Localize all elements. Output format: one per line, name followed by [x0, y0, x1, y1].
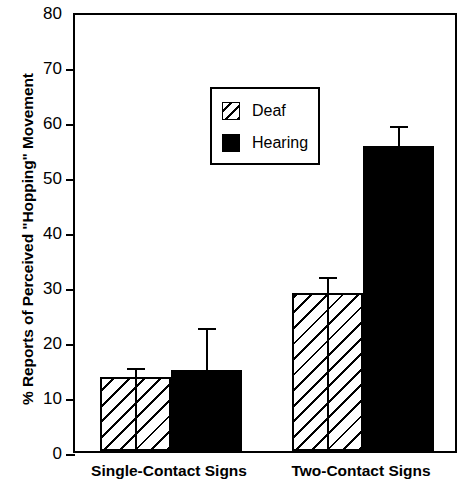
- y-tick-mark-50: [66, 179, 75, 181]
- y-tick-mark-10: [66, 399, 75, 401]
- legend-entry-deaf: Deaf: [222, 101, 286, 121]
- y-tick-label-0: 0: [32, 445, 62, 462]
- error-bar-stem: [206, 330, 208, 451]
- y-tick-label-20: 20: [32, 335, 62, 352]
- hatched-swatch-icon: [222, 102, 240, 120]
- solid-black-swatch-icon: [222, 134, 240, 152]
- error-bar-cap: [198, 328, 216, 330]
- y-tick-label-40: 40: [32, 225, 62, 242]
- y-tick-label-50: 50: [32, 170, 62, 187]
- x-axis-label-2: Two-Contact Signs: [291, 462, 430, 480]
- y-tick-label-10: 10: [32, 390, 62, 407]
- error-bar-stem: [135, 370, 137, 451]
- y-tick-label-60: 60: [32, 115, 62, 132]
- y-tick-label-70: 70: [32, 60, 62, 77]
- legend-entry-hearing: Hearing: [222, 133, 308, 153]
- x-axis-label-1: Single-Contact Signs: [91, 462, 247, 480]
- y-tick-mark-30: [66, 289, 75, 291]
- y-tick-mark-0: [66, 454, 75, 456]
- error-bar-stem: [327, 279, 329, 451]
- y-tick-mark-60: [66, 124, 75, 126]
- error-bar-cap: [319, 277, 337, 279]
- y-tick-mark-40: [66, 234, 75, 236]
- error-bar-cap: [390, 126, 408, 128]
- y-axis-tick-labels: 01020304050607080: [28, 0, 62, 497]
- legend: Deaf Hearing: [210, 87, 320, 165]
- bar-chart-figure: % Reports of Perceived "Hopping" Movemen…: [0, 0, 468, 497]
- error-bar-cap: [127, 368, 145, 370]
- y-tick-label-30: 30: [32, 280, 62, 297]
- legend-label-hearing: Hearing: [252, 135, 308, 151]
- y-tick-label-80: 80: [32, 5, 62, 22]
- legend-label-deaf: Deaf: [252, 103, 286, 119]
- error-bar-stem: [398, 128, 400, 451]
- y-tick-mark-20: [66, 344, 75, 346]
- y-tick-mark-70: [66, 69, 75, 71]
- plot-area: Deaf Hearing: [73, 13, 457, 453]
